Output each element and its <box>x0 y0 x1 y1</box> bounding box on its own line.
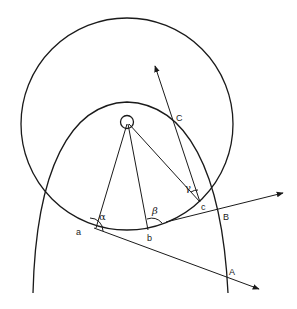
label-point-B: B <box>223 212 229 222</box>
label-angle-gamma: γ <box>185 182 191 193</box>
label-point-A: A <box>229 267 235 277</box>
label-point-C: C <box>176 113 183 123</box>
ray-c-to-C <box>155 66 200 202</box>
label-point-a: a <box>76 227 81 237</box>
label-point-b: b <box>147 233 152 243</box>
label-point-c: c <box>201 202 206 212</box>
label-angle-beta: β <box>151 205 158 216</box>
diagram-canvas: a b c B A C α β γ <box>0 0 297 309</box>
ray-a-to-A <box>94 228 259 289</box>
radius-line-b <box>128 124 148 230</box>
angle-arc-beta <box>147 218 162 223</box>
label-angle-alpha: α <box>99 211 106 222</box>
